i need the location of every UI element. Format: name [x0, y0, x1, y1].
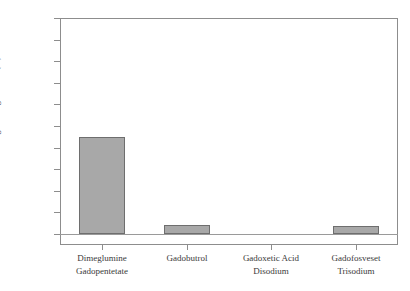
x-axis-label: GadofosvesetTrisodium — [301, 252, 410, 277]
y-tick-mark — [54, 61, 60, 62]
y-axis-title: Biological Degradation (%) — [10, 0, 30, 251]
y-tick-mark — [54, 83, 60, 84]
y-tick-mark — [54, 126, 60, 127]
y-tick-mark — [54, 169, 60, 170]
y-tick-mark — [54, 18, 60, 19]
y-tick-mark — [54, 148, 60, 149]
y-tick-mark — [54, 212, 60, 213]
x-tick-mark — [102, 245, 103, 250]
y-tick-mark — [54, 40, 60, 41]
y-tick-mark — [54, 234, 60, 235]
y-axis-title-label: Biological Degradation (%) — [0, 57, 1, 154]
x-tick-mark — [187, 245, 188, 250]
zero-baseline — [60, 234, 398, 235]
bar[interactable] — [79, 137, 125, 234]
bar[interactable] — [164, 225, 210, 234]
x-axis-label-line: Gadopentetate — [47, 265, 157, 278]
bar[interactable] — [333, 226, 379, 234]
x-tick-mark — [271, 245, 272, 250]
y-tick-mark — [54, 191, 60, 192]
x-tick-mark — [356, 245, 357, 250]
y-tick-mark — [54, 104, 60, 105]
bar-chart: Biological Degradation (%) 0102030405060… — [0, 0, 410, 291]
x-axis-label-line: Gadofosveset — [301, 252, 410, 265]
x-axis-label-line: Trisodium — [301, 265, 410, 278]
